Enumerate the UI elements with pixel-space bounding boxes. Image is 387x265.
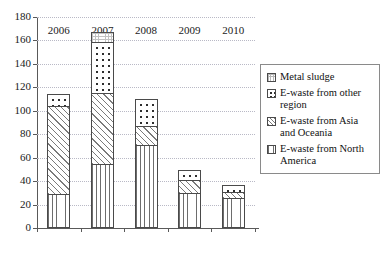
y-axis-tick (33, 158, 37, 159)
x-axis-tick-label: 2006 (36, 24, 82, 36)
x-axis-tick (124, 228, 125, 232)
y-axis-tick (33, 17, 37, 18)
y-axis-tick (33, 134, 37, 135)
bar-segment[interactable] (47, 194, 70, 228)
x-axis-tick-label: 2009 (167, 24, 213, 36)
legend-swatch-icon (267, 89, 276, 98)
x-axis-tick (81, 228, 82, 232)
y-axis-tick (33, 87, 37, 88)
bar-stack[interactable] (47, 95, 70, 228)
legend-item[interactable]: E-waste from other region (267, 87, 374, 111)
gridline (37, 17, 255, 18)
bar-segment[interactable] (91, 164, 114, 228)
gridline (37, 40, 255, 41)
stacked-bar-chart: 0204060801001201401601802006200720082009… (0, 0, 387, 265)
y-axis-tick-label: 40 (5, 175, 31, 186)
y-axis-tick (33, 64, 37, 65)
legend-item-label: Metal sludge (280, 71, 335, 83)
x-axis-tick (211, 228, 212, 232)
y-axis-tick (33, 111, 37, 112)
plot-area: 0204060801001201401601802006200720082009… (37, 17, 255, 228)
legend-item-label: E-waste from North America (280, 143, 374, 167)
y-axis-tick-label: 180 (5, 11, 31, 22)
chart-legend: Metal sludgeE-waste from other regionE-w… (260, 64, 380, 174)
y-axis-tick-label: 20 (5, 199, 31, 210)
legend-item[interactable]: E-waste from North America (267, 143, 374, 167)
bar-segment[interactable] (91, 93, 114, 165)
bar-segment[interactable] (135, 126, 158, 146)
x-axis-tick (255, 228, 256, 232)
legend-swatch-icon (267, 145, 276, 154)
bar-stack[interactable] (178, 171, 201, 228)
y-axis-tick-label: 80 (5, 128, 31, 139)
bar-stack[interactable] (135, 100, 158, 228)
bar-segment[interactable] (178, 193, 201, 228)
x-axis-tick (168, 228, 169, 232)
bar-segment[interactable] (222, 198, 245, 228)
y-axis-tick-label: 140 (5, 58, 31, 69)
y-axis-tick (33, 205, 37, 206)
x-axis-tick-label: 2008 (123, 24, 169, 36)
y-axis-tick-label: 160 (5, 34, 31, 45)
bar-stack[interactable] (91, 33, 114, 228)
bar-segment[interactable] (178, 180, 201, 194)
gridline (37, 64, 255, 65)
x-axis-line (37, 228, 259, 229)
x-axis-tick-label: 2010 (210, 24, 256, 36)
bar-segment[interactable] (47, 106, 70, 195)
gridline (37, 87, 255, 88)
legend-swatch-icon (267, 117, 276, 126)
bar-stack[interactable] (222, 186, 245, 228)
y-axis-tick (33, 40, 37, 41)
y-axis-tick-label: 60 (5, 152, 31, 163)
y-axis-tick-label: 100 (5, 105, 31, 116)
y-axis-tick-label: 0 (5, 222, 31, 233)
legend-item-label: E-waste from other region (280, 87, 374, 111)
legend-item[interactable]: E-waste from Asia and Oceania (267, 115, 374, 139)
y-axis-tick (33, 181, 37, 182)
y-axis-tick-label: 120 (5, 81, 31, 92)
bar-segment[interactable] (135, 145, 158, 228)
legend-item[interactable]: Metal sludge (267, 71, 374, 83)
bar-segment[interactable] (135, 99, 158, 127)
legend-item-label: E-waste from Asia and Oceania (280, 115, 374, 139)
x-axis-tick (37, 228, 38, 232)
bar-segment[interactable] (91, 42, 114, 94)
legend-swatch-icon (267, 73, 276, 82)
